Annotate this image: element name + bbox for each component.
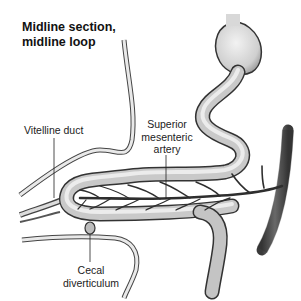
label-superior-mesenteric-artery: Superior mesenteric artery [136, 118, 198, 156]
colon-limb [200, 212, 220, 292]
label-cecal-diverticulum: Cecal diverticulum [60, 264, 122, 289]
cecal-line-2: diverticulum [60, 277, 122, 290]
cecal-line-1: Cecal [60, 264, 122, 277]
diagram-title: Midline section, midline loop [22, 20, 116, 50]
sma-line-2: mesenteric [136, 131, 198, 144]
sma-line-3: artery [136, 143, 198, 156]
label-vitelline-duct: Vitelline duct [24, 124, 83, 137]
vitelline-duct [20, 200, 62, 222]
diagram-canvas: Midline section, midline loop Vitelline … [0, 0, 301, 301]
title-line-1: Midline section, [22, 20, 116, 35]
sma-line-1: Superior [136, 118, 198, 131]
title-line-2: midline loop [22, 35, 116, 50]
cecal-diverticulum [85, 222, 95, 234]
